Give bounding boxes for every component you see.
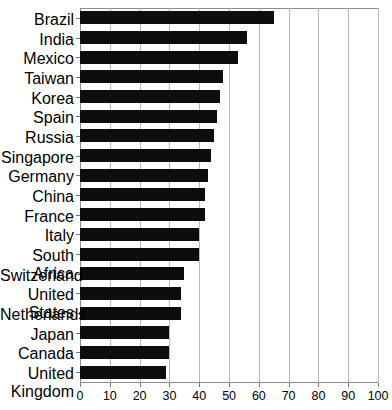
y-tick bbox=[76, 372, 80, 373]
category-label: China bbox=[0, 188, 74, 206]
x-tick-50 bbox=[229, 383, 230, 387]
category-label: Switzerland bbox=[0, 267, 74, 285]
y-tick bbox=[76, 38, 80, 39]
bar-row: Singapore bbox=[80, 146, 378, 166]
y-tick bbox=[76, 18, 80, 19]
bar-row: Switzerland bbox=[80, 264, 378, 284]
gridline-100 bbox=[378, 8, 379, 382]
y-tick bbox=[76, 57, 80, 58]
x-tick-label: 100 bbox=[358, 389, 392, 403]
x-tick-70 bbox=[289, 383, 290, 387]
x-tick-10 bbox=[110, 383, 111, 387]
bar-row: South Africa bbox=[80, 244, 378, 264]
x-tick-90 bbox=[348, 383, 349, 387]
bar-row: Canada bbox=[80, 343, 378, 363]
category-label: Korea bbox=[0, 90, 74, 108]
y-tick bbox=[76, 116, 80, 117]
bar-row: China bbox=[80, 185, 378, 205]
category-label: Netherlands bbox=[0, 306, 74, 324]
bar-row: Taiwan bbox=[80, 67, 378, 87]
bar-row: France bbox=[80, 205, 378, 225]
bar bbox=[80, 346, 169, 359]
bar bbox=[80, 208, 205, 221]
bar bbox=[80, 169, 208, 182]
y-tick bbox=[76, 97, 80, 98]
bar bbox=[80, 228, 199, 241]
bar bbox=[80, 248, 199, 261]
bar bbox=[80, 70, 223, 83]
bar-row: Italy bbox=[80, 225, 378, 245]
x-tick-40 bbox=[199, 383, 200, 387]
bar-row: Netherlands bbox=[80, 303, 378, 323]
y-tick bbox=[76, 175, 80, 176]
bar-row: United States bbox=[80, 284, 378, 304]
category-label: Brazil bbox=[0, 11, 74, 29]
bar-row: Japan bbox=[80, 323, 378, 343]
bar bbox=[80, 31, 247, 44]
bar bbox=[80, 188, 205, 201]
y-tick bbox=[76, 352, 80, 353]
y-tick bbox=[76, 195, 80, 196]
bar-row: Germany bbox=[80, 165, 378, 185]
category-label: Mexico bbox=[0, 50, 74, 68]
bar-row: Mexico bbox=[80, 47, 378, 67]
category-label: Taiwan bbox=[0, 70, 74, 88]
y-tick bbox=[76, 215, 80, 216]
y-tick bbox=[76, 234, 80, 235]
category-label: Germany bbox=[0, 168, 74, 186]
category-label: France bbox=[0, 208, 74, 226]
bar bbox=[80, 326, 169, 339]
bar bbox=[80, 307, 181, 320]
bar-row: India bbox=[80, 28, 378, 48]
bar bbox=[80, 51, 238, 64]
x-tick-80 bbox=[318, 383, 319, 387]
bar-row: Brazil bbox=[80, 8, 378, 28]
bar bbox=[80, 366, 166, 379]
bar-row: United Kingdom bbox=[80, 362, 378, 382]
bar bbox=[80, 129, 214, 142]
bar bbox=[80, 267, 184, 280]
bar bbox=[80, 11, 274, 24]
y-tick bbox=[76, 136, 80, 137]
x-tick-20 bbox=[140, 383, 141, 387]
bar bbox=[80, 90, 220, 103]
category-label: Japan bbox=[0, 326, 74, 344]
plot-area: BrazilIndiaMexicoTaiwanKoreaSpainRussiaS… bbox=[80, 8, 378, 382]
y-tick bbox=[76, 77, 80, 78]
x-tick-100 bbox=[378, 383, 379, 387]
bar bbox=[80, 110, 217, 123]
category-label: India bbox=[0, 31, 74, 49]
y-tick bbox=[76, 254, 80, 255]
x-tick-60 bbox=[259, 383, 260, 387]
y-tick bbox=[76, 156, 80, 157]
x-tick-30 bbox=[169, 383, 170, 387]
y-tick bbox=[76, 333, 80, 334]
bar bbox=[80, 149, 211, 162]
x-tick-0 bbox=[80, 383, 81, 387]
bar bbox=[80, 287, 181, 300]
y-tick bbox=[76, 293, 80, 294]
bar-row: Korea bbox=[80, 87, 378, 107]
bar-chart: BrazilIndiaMexicoTaiwanKoreaSpainRussiaS… bbox=[0, 0, 392, 410]
category-label: Spain bbox=[0, 109, 74, 127]
category-label: Italy bbox=[0, 227, 74, 245]
bar-row: Spain bbox=[80, 106, 378, 126]
category-label: Canada bbox=[0, 345, 74, 363]
category-label: Singapore bbox=[0, 149, 74, 167]
bar-row: Russia bbox=[80, 126, 378, 146]
category-label: Russia bbox=[0, 129, 74, 147]
